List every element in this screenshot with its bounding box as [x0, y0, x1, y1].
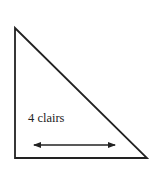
- length-label: 4 clairs: [28, 111, 65, 125]
- triangle-diagram: 4 clairs: [0, 0, 162, 172]
- right-triangle: [15, 28, 147, 158]
